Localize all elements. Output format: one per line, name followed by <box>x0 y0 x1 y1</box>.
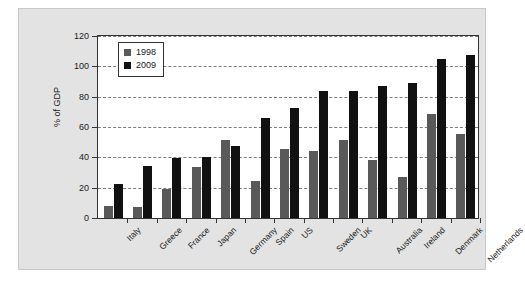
bar-australia-1998 <box>368 160 377 218</box>
y-tick-label: 80 <box>59 92 89 102</box>
bar-group <box>220 36 240 218</box>
x-tick <box>274 218 275 223</box>
bar-denmark-2009 <box>437 59 446 218</box>
bar-uk-2009 <box>349 91 358 218</box>
x-tick <box>157 218 158 223</box>
legend-label-2009: 2009 <box>136 61 156 70</box>
bar-germany-2009 <box>231 146 240 218</box>
bar-japan-1998 <box>192 167 201 218</box>
y-tick <box>92 157 98 158</box>
bar-group <box>338 36 358 218</box>
bar-uk-1998 <box>339 140 348 218</box>
x-tick-label: Sweden <box>334 225 363 254</box>
legend-item-2009: 2009 <box>124 59 156 72</box>
bar-denmark-1998 <box>427 114 436 218</box>
x-tick <box>480 218 481 223</box>
y-tick-label: 20 <box>59 183 89 193</box>
y-tick-label: 100 <box>59 61 89 71</box>
legend-swatch-2009 <box>124 62 131 69</box>
x-tick <box>421 218 422 223</box>
y-tick-label: 0 <box>59 213 89 223</box>
x-tick <box>362 218 363 223</box>
bar-france-1998 <box>162 189 171 218</box>
legend-label-1998: 1998 <box>136 48 156 57</box>
bar-spain-2009 <box>261 118 270 218</box>
legend-item-1998: 1998 <box>124 46 156 59</box>
y-tick <box>92 127 98 128</box>
bar-sweden-1998 <box>309 151 318 218</box>
bar-group <box>161 36 181 218</box>
bar-us-1998 <box>280 149 289 218</box>
bar-group <box>397 36 417 218</box>
x-tick <box>304 218 305 223</box>
bar-group <box>191 36 211 218</box>
bar-france-2009 <box>172 158 181 218</box>
x-tick <box>216 218 217 223</box>
x-tick-label: Greece <box>157 225 184 252</box>
y-tick <box>92 218 98 219</box>
bar-japan-2009 <box>202 157 211 218</box>
x-tick-label: Denmark <box>453 225 484 256</box>
x-tick <box>186 218 187 223</box>
x-tick-label: France <box>186 225 212 251</box>
x-tick <box>245 218 246 223</box>
y-tick <box>92 188 98 189</box>
chart-card-panel: % of GDP 020406080100120 ItalyGreeceFran… <box>18 8 486 270</box>
y-tick <box>92 36 98 37</box>
bar-italy-1998 <box>104 206 113 218</box>
y-tick-label: 120 <box>59 31 89 41</box>
bar-us-2009 <box>290 108 299 218</box>
y-tick-label: 40 <box>59 152 89 162</box>
bar-greece-2009 <box>143 166 152 218</box>
plot-area: 020406080100120 ItalyGreeceFranceJapanGe… <box>97 35 479 219</box>
x-tick <box>392 218 393 223</box>
x-tick-label: Italy <box>124 225 142 243</box>
x-tick-label: US <box>299 225 314 240</box>
bar-group <box>279 36 299 218</box>
bar-group <box>426 36 446 218</box>
legend: 1998 2009 <box>118 42 164 77</box>
bar-ireland-2009 <box>408 83 417 218</box>
bar-greece-1998 <box>133 207 142 218</box>
bar-group <box>250 36 270 218</box>
y-tick <box>92 66 98 67</box>
bar-spain-1998 <box>251 181 260 218</box>
bar-netherlands-2009 <box>466 55 475 218</box>
bar-sweden-2009 <box>319 91 328 218</box>
bar-group <box>455 36 475 218</box>
x-tick-label: Ireland <box>421 225 446 250</box>
x-tick <box>333 218 334 223</box>
x-tick-label: Australia <box>394 225 424 255</box>
bar-germany-1998 <box>221 140 230 218</box>
y-tick <box>92 97 98 98</box>
bar-australia-2009 <box>378 86 387 218</box>
legend-swatch-1998 <box>124 49 131 56</box>
x-tick <box>127 218 128 223</box>
x-tick-label: Netherlands <box>486 225 525 264</box>
y-tick-label: 60 <box>59 122 89 132</box>
bar-group <box>367 36 387 218</box>
bar-netherlands-1998 <box>456 134 465 218</box>
x-tick-label: Japan <box>215 225 238 248</box>
bar-ireland-1998 <box>398 177 407 218</box>
bar-group <box>308 36 328 218</box>
x-tick-label: UK <box>358 225 373 240</box>
bar-italy-2009 <box>114 184 123 218</box>
x-tick <box>451 218 452 223</box>
